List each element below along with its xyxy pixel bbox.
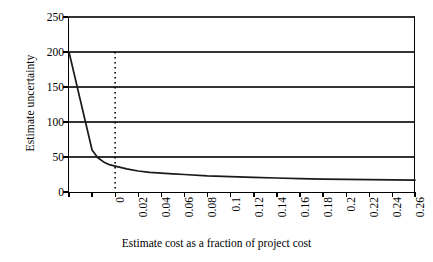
chart-figure: Estimate uncertainty 250 200 150 100 50 … bbox=[0, 0, 433, 262]
x-axis-title: Estimate cost as a fraction of project c… bbox=[0, 237, 433, 249]
x-axis-tick-labels: 0 0.02 0.04 0.06 0.08 0.1 0.12 0.14 0.16… bbox=[0, 0, 433, 262]
